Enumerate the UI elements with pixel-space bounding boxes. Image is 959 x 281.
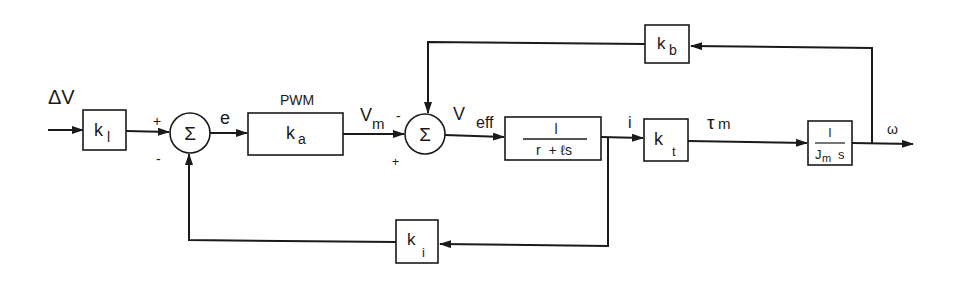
input-signal: ΔV (48, 86, 83, 130)
sum2-minus-sign: - (396, 108, 401, 124)
wire-kb-to-sum2 (428, 42, 645, 113)
signal-tau-label: τ m (707, 112, 731, 133)
block-kb: k b (645, 25, 689, 63)
veff-sub: eff (476, 114, 494, 131)
input-label: ΔV (48, 86, 75, 108)
signal-i-label: i (628, 114, 632, 131)
electrical-numerator: l (554, 121, 557, 137)
mechanical-numerator: l (829, 125, 832, 140)
sum2-symbol: Σ (419, 124, 431, 145)
signal-veff-label: V eff (453, 104, 494, 131)
block-ki-main: k (407, 230, 416, 249)
block-k1-sub: l (107, 129, 110, 145)
block-diagram: ΔV k l Σ + - e PWM k a V m Σ - + V eff (0, 0, 959, 281)
block-ka-sub: a (298, 131, 306, 147)
block-ki: k i (396, 220, 438, 263)
block-ka-pwm: PWM k a (248, 92, 343, 155)
block-kt-sub: t (672, 144, 676, 159)
sum1-symbol: Σ (184, 123, 196, 144)
veff-main: V (453, 104, 465, 124)
block-mechanical: l J m s (808, 121, 852, 165)
wire-ki-to-sum1 (189, 154, 396, 242)
tau-sub: m (718, 115, 731, 132)
block-k1-main: k (94, 120, 104, 140)
block-kt-main: k (654, 129, 664, 149)
electrical-denominator: r + ℓs (536, 142, 572, 158)
wire-sum2-to-electrical (445, 135, 504, 137)
summing-junction-1: Σ + - (153, 113, 210, 167)
block-kb-main: k (657, 34, 666, 53)
mechanical-den-tail: s (838, 147, 845, 162)
output-arrow (852, 143, 913, 144)
sum1-plus-sign: + (153, 113, 161, 129)
summing-junction-2: Σ - + (392, 108, 445, 169)
block-electrical: l r + ℓs (505, 117, 601, 160)
block-kt: k t (644, 119, 688, 161)
signal-e-label: e (220, 108, 230, 128)
pwm-caption: PWM (280, 92, 314, 108)
wire-kt-to-mechanical (688, 141, 807, 143)
sum1-minus-sign: - (156, 151, 161, 167)
block-kb-sub: b (669, 42, 677, 58)
block-k1: k l (83, 110, 126, 150)
mechanical-den-main: J (815, 147, 822, 162)
wire-k1-to-sum1 (126, 131, 169, 132)
vm-sub: m (372, 115, 385, 132)
signal-vm-label: V m (360, 105, 385, 132)
block-ka-main: k (286, 123, 296, 143)
block-ki-sub: i (422, 245, 425, 260)
sum2-plus-sign: + (392, 155, 399, 169)
mechanical-den-sub: m (822, 152, 831, 164)
vm-main: V (360, 105, 372, 125)
output-label: ω (887, 121, 898, 137)
tau-main: τ (707, 112, 715, 133)
